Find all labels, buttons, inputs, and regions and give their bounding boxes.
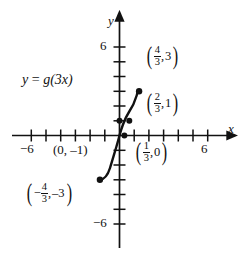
x-tick-label-negative-six: −6 [20, 142, 34, 155]
point-label-bottom: ( − 4 3 , –3 ) [25, 182, 73, 204]
fraction-one-third: 1 3 [143, 141, 150, 163]
paren-close-icon: ) [162, 142, 167, 163]
function-label: y = g(3x) [22, 73, 73, 87]
x-tick-label-positive-six: 6 [201, 142, 208, 155]
paren-open-icon: ( [136, 142, 141, 163]
paren-open-icon: ( [147, 46, 152, 67]
y-tick-label-positive-six: 6 [100, 39, 107, 52]
fraction-four-thirds: 4 3 [154, 45, 161, 67]
point-label-top: ( 4 3 , 3 ) [145, 45, 180, 67]
fraction-two-thirds: 2 3 [154, 92, 161, 114]
function-label-equals: = [32, 72, 40, 87]
y-tick-label-negative-six: −6 [93, 216, 107, 229]
minus-sign-icon: − [34, 187, 41, 200]
coordinate-plane [0, 0, 246, 254]
y-axis-label: y [108, 14, 114, 27]
paren-close-icon: ) [66, 183, 71, 204]
graph-figure: x y −6 6 6 −6 y = g(3x) ( 4 3 , 3 ) ( 2 … [0, 0, 246, 254]
paren-close-icon: ) [173, 46, 178, 67]
paren-close-icon: ) [173, 93, 178, 114]
x-axis-label: x [228, 122, 234, 135]
paren-open-icon: ( [147, 93, 152, 114]
point-dot-bottom-endpoint [97, 177, 103, 183]
point-dot-x-intercept [121, 133, 127, 139]
point-dot-y-intercept [117, 118, 123, 124]
point-dot-mid [126, 118, 132, 124]
point-label-x-intercept: ( 1 3 , 0 ) [134, 141, 169, 163]
function-label-y: y [22, 72, 28, 87]
fraction-four-thirds: 4 3 [41, 182, 48, 204]
point-label-mid: ( 2 3 , 1 ) [145, 92, 180, 114]
point-label-y-intercept: (0, –1) [53, 143, 88, 156]
function-label-expression: g(3x) [43, 72, 73, 87]
point-dot-top-endpoint [136, 88, 142, 94]
paren-open-icon: ( [27, 183, 32, 204]
